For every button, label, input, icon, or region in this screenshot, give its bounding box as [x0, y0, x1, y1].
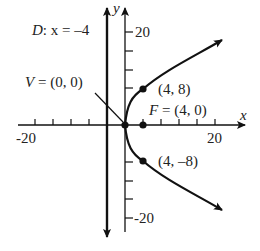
x-tick-label-20: 20	[207, 130, 222, 146]
y-tick-label-20: 20	[135, 24, 150, 40]
vertex: V = (0, 0)	[25, 74, 129, 129]
directrix-label: D: x = –4	[31, 22, 90, 38]
x-tick-label-neg20: -20	[16, 130, 36, 146]
focus-label: F = (4, 0)	[148, 102, 207, 119]
vertex-label: V = (0, 0)	[25, 74, 83, 91]
point-4-neg8: (4, –8)	[139, 153, 198, 170]
vertex-point	[121, 121, 128, 128]
x-axis: -20 20 x	[16, 107, 247, 146]
parabola-diagram: -20 20 x 20 -20 y D: x = –4 V =	[0, 0, 260, 251]
directrix: D: x = –4	[31, 8, 107, 237]
focus-point	[139, 121, 146, 128]
point-4-8-label: (4, 8)	[158, 81, 191, 98]
point-4-neg8-label: (4, –8)	[158, 153, 198, 170]
y-tick-label-neg20: -20	[134, 210, 154, 226]
x-axis-label: x	[239, 107, 247, 123]
point-4-8: (4, 8)	[139, 81, 190, 98]
y-axis-label: y	[111, 0, 120, 16]
